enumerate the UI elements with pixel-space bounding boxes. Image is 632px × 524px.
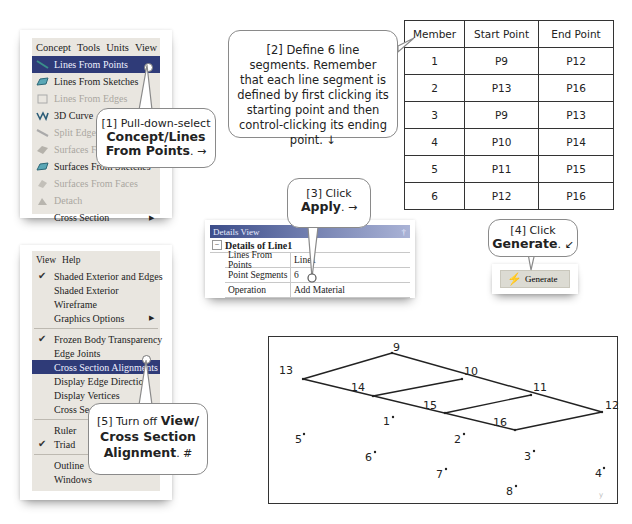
- details-row-point-segments: Point Segments 6: [225, 268, 410, 283]
- surface-sketch-icon: [36, 161, 49, 172]
- cell-start: P10: [465, 129, 539, 156]
- triad-y-label: y: [599, 491, 603, 499]
- details-row-value[interactable]: Add Material: [291, 283, 345, 297]
- callout-bold: Cross Section: [100, 429, 196, 444]
- callout-arrow: . →: [190, 145, 206, 158]
- menu-item-display-vertices[interactable]: Display Vertices: [32, 388, 160, 402]
- menu-item-surfaces-from-faces[interactable]: Surfaces From Faces: [32, 175, 160, 192]
- menu-item-lines-from-sketches[interactable]: Lines From Sketches: [32, 73, 160, 90]
- menu-item-label: Triad: [54, 439, 75, 450]
- svg-text:11: 11: [533, 381, 547, 394]
- menu-item-label: Windows: [54, 474, 92, 485]
- split-edges-icon: [36, 127, 49, 138]
- cell-end: P15: [539, 156, 614, 183]
- svg-text:7: 7: [436, 468, 443, 481]
- menu-item-cross-section-alignments[interactable]: Cross Section Alignments: [32, 360, 160, 374]
- menu-item-label: Lines From Edges: [54, 93, 127, 104]
- svg-text:14: 14: [351, 381, 365, 394]
- callout-arrow: . →: [341, 201, 357, 214]
- svg-text:6: 6: [365, 451, 372, 464]
- table-row: 5P11P15: [405, 156, 614, 183]
- cell-member: 4: [405, 129, 465, 156]
- menu-concept[interactable]: Concept: [36, 42, 71, 53]
- table-row: 3P9P13: [405, 102, 614, 129]
- checkmark-icon: ✔: [38, 270, 46, 281]
- svg-text:4: 4: [595, 467, 602, 480]
- menu-item-shaded-exterior[interactable]: Shaded Exterior: [32, 283, 160, 297]
- table-row: 1P9P12: [405, 48, 614, 75]
- header-start-point: Start Point: [465, 21, 539, 48]
- details-view-title: Details View: [213, 227, 260, 237]
- menu-item-edge-joints[interactable]: Edge Joints: [32, 346, 160, 360]
- menu-units[interactable]: Units: [106, 42, 129, 53]
- menu-item-label: Display Edge Direction: [54, 376, 148, 387]
- callout-step-1: [1] Pull-down-select Concept/Lines From …: [96, 108, 216, 168]
- table-header-row: Member Start Point End Point: [405, 21, 614, 48]
- header-end-point: End Point: [539, 21, 614, 48]
- svg-text:2: 2: [454, 433, 461, 446]
- collapse-icon[interactable]: −: [212, 240, 222, 250]
- menu-item-label: Cross Section Alignments: [54, 362, 158, 373]
- callout-step-2: [2] Define 6 line segments. Remember tha…: [228, 30, 398, 138]
- cell-start: P12: [465, 183, 539, 210]
- menubar: Concept Tools Units View: [32, 38, 160, 56]
- callout-bold: Generate: [492, 236, 557, 251]
- svg-text:1: 1: [383, 415, 390, 428]
- menu-item-label: Shaded Exterior and Edges: [54, 271, 163, 282]
- cell-end: P16: [539, 183, 614, 210]
- pin-icon[interactable]: †: [402, 227, 407, 237]
- cell-member: 5: [405, 156, 465, 183]
- callout-step-4: [4] Click Generate. ↙: [488, 219, 578, 257]
- menu-item-wireframe[interactable]: Wireframe: [32, 297, 160, 311]
- menu-item-detach[interactable]: Detach: [32, 192, 160, 209]
- cell-start: P11: [465, 156, 539, 183]
- cell-start: P13: [465, 75, 539, 102]
- details-section-title: Details of Line1: [225, 240, 292, 251]
- details-row-value[interactable]: Line1: [291, 253, 316, 267]
- menu-item-frozen-body-transparency[interactable]: ✔ Frozen Body Transparency: [32, 332, 160, 346]
- svg-text:13: 13: [279, 364, 293, 377]
- callout-step-5: [5] Turn off View/ Cross Section Alignme…: [88, 403, 208, 475]
- point-markers: [302, 352, 605, 487]
- menu-item-label: Shaded Exterior: [54, 285, 119, 296]
- svg-text:16: 16: [493, 416, 507, 429]
- curve-icon: [36, 110, 49, 121]
- svg-text:8: 8: [506, 485, 513, 498]
- svg-text:3: 3: [524, 450, 531, 463]
- details-view: Details View † − Details of Line1 Lines …: [210, 225, 410, 298]
- menu-item-label: Split Edges: [54, 127, 100, 138]
- menu-item-shaded-exterior-edges[interactable]: ✔ Shaded Exterior and Edges: [32, 269, 160, 283]
- surface-edges-icon: [36, 144, 49, 155]
- checkmark-icon: ✔: [38, 333, 46, 344]
- callout-bold: Apply: [301, 199, 341, 214]
- header-member: Member: [405, 21, 465, 48]
- line-icon: [36, 59, 49, 70]
- checkmark-icon: ✔: [38, 438, 46, 449]
- menu-item-cross-section[interactable]: Cross Section ▶: [32, 209, 160, 226]
- menu-item-label: Detach: [54, 195, 82, 206]
- menu-view[interactable]: View: [36, 255, 56, 265]
- details-row-value[interactable]: 6: [291, 268, 299, 282]
- menu-item-lines-from-points[interactable]: Lines From Points: [32, 56, 160, 73]
- menu-item-graphics-options[interactable]: Graphics Options ▶: [32, 311, 160, 325]
- menu-view[interactable]: View: [135, 42, 157, 53]
- submenu-arrow-icon: ▶: [149, 314, 154, 322]
- callout-step-3: [3] Click Apply. →: [287, 178, 371, 228]
- generate-button[interactable]: ⚡ Generate: [500, 270, 570, 288]
- details-row-lines-from-points: Lines From Points Line1: [225, 253, 410, 268]
- menu-item-label: Ruler: [54, 425, 76, 436]
- table-row: 2P13P16: [405, 75, 614, 102]
- graphics-viewport[interactable]: 9 10 11 12 13 14 15 16 1 2 3 4 5 6 7 8 y: [268, 336, 618, 504]
- details-row-operation: Operation Add Material: [225, 283, 410, 298]
- menu-item-display-edge-direction[interactable]: Display Edge Direction: [32, 374, 160, 388]
- menu-help[interactable]: Help: [62, 255, 80, 265]
- menu-item-label: Graphics Options: [54, 313, 124, 324]
- cell-member: 1: [405, 48, 465, 75]
- cell-end: P13: [539, 102, 614, 129]
- surface-faces-icon: [36, 178, 49, 189]
- menu-item-lines-from-edges[interactable]: Lines From Edges: [32, 90, 160, 107]
- menu-item-label: Surfaces From Faces: [54, 178, 138, 189]
- menu-tools[interactable]: Tools: [77, 42, 100, 53]
- point-diagram[interactable]: 9 10 11 12 13 14 15 16 1 2 3 4 5 6 7 8 y: [269, 337, 619, 505]
- line-segments: [303, 353, 602, 430]
